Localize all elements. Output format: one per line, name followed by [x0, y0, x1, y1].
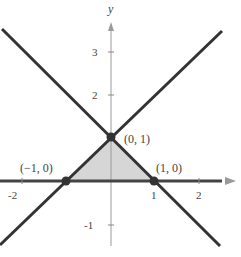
- y-axis-arrow-icon: [108, 22, 114, 31]
- graph: y 3 2 -1 -2 1 2 (0, 1) (−1, 0) (1, 0): [0, 0, 241, 257]
- point-label-neg1-0: (−1, 0): [20, 161, 53, 175]
- y-axis-label: y: [107, 2, 114, 16]
- y-tick-neg1: -1: [84, 219, 93, 231]
- point-label-1-0: (1, 0): [156, 161, 182, 175]
- y-tick-2: 2: [92, 89, 98, 101]
- point-0-1: [107, 133, 116, 142]
- y-tick-3: 3: [92, 46, 98, 58]
- x-tick-neg2: -2: [8, 189, 17, 201]
- point-label-0-1: (0, 1): [124, 132, 150, 146]
- x-tick-2: 2: [196, 189, 202, 201]
- x-tick-1: 1: [151, 189, 157, 201]
- point-neg1-0: [62, 177, 71, 186]
- x-axis-arrow-icon: [225, 177, 236, 185]
- point-1-0: [150, 177, 159, 186]
